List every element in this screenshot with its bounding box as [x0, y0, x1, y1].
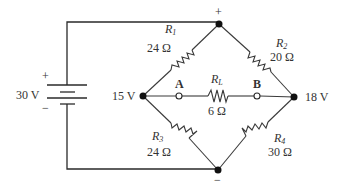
terminal-a [176, 93, 182, 99]
r4-name: R4 [273, 131, 285, 146]
battery-voltage-label: 30 V [16, 88, 40, 102]
battery-minus-label: − [42, 101, 49, 115]
terminal-b [254, 93, 260, 99]
rl-value: 6 Ω [208, 104, 226, 118]
circuit-diagram: + 30 V − R1 24 Ω R2 20 Ω R3 24 Ω R4 30 Ω [0, 0, 343, 188]
r2-value: 20 Ω [270, 50, 294, 64]
r1-name: R1 [164, 22, 176, 37]
node-right-voltage: 18 V [305, 90, 329, 104]
terminal-a-label: A [175, 77, 184, 91]
terminal-b-label: B [253, 77, 261, 91]
load-branch [143, 90, 294, 102]
node-top [216, 21, 223, 28]
battery-plus-label: + [42, 69, 49, 83]
node-right [291, 94, 298, 101]
node-left-voltage: 15 V [112, 89, 136, 103]
resistor-r4 [218, 97, 294, 170]
r3-name: R3 [151, 129, 163, 144]
battery-symbol [47, 85, 87, 104]
r2-name: R2 [275, 36, 287, 51]
node-top-polarity: + [215, 5, 222, 19]
r3-value: 24 Ω [147, 145, 171, 159]
node-bottom-polarity: − [214, 173, 221, 187]
node-left [140, 93, 147, 100]
r1-value: 24 Ω [147, 41, 171, 55]
rl-name: RL [210, 72, 223, 87]
r4-value: 30 Ω [268, 145, 292, 159]
